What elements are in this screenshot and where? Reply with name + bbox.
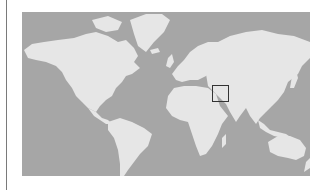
left-divider-line [6, 0, 7, 190]
world-map [22, 12, 310, 176]
world-map-svg [22, 12, 310, 176]
highlight-box-south-asia [212, 85, 229, 102]
